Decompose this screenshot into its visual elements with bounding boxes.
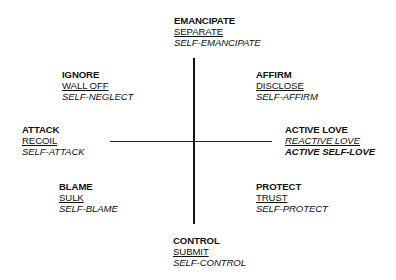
- node-active-love-reactive: REACTIVE LOVE: [285, 135, 375, 146]
- node-ignore-self: SELF-NEGLECT: [62, 91, 133, 102]
- node-emancipate: EMANCIPATE SEPARATE SELF-EMANCIPATE: [174, 15, 261, 48]
- node-attack: ATTACK RECOIL SELF-ATTACK: [22, 124, 85, 157]
- node-blame-primary: BLAME: [59, 181, 118, 192]
- node-blame-self: SELF-BLAME: [59, 203, 118, 214]
- node-attack-reactive: RECOIL: [22, 135, 85, 146]
- node-ignore: IGNORE WALL OFF SELF-NEGLECT: [62, 69, 133, 102]
- node-protect-primary: PROTECT: [256, 181, 328, 192]
- node-emancipate-reactive: SEPARATE: [174, 26, 261, 37]
- node-control-self: SELF-CONTROL: [173, 257, 246, 268]
- node-attack-primary: ATTACK: [22, 124, 85, 135]
- node-emancipate-self: SELF-EMANCIPATE: [174, 37, 261, 48]
- horizontal-axis-line: [110, 141, 272, 142]
- node-control: CONTROL SUBMIT SELF-CONTROL: [173, 235, 246, 268]
- node-affirm: AFFIRM DISCLOSE SELF-AFFIRM: [256, 69, 318, 102]
- node-active-love: ACTIVE LOVE REACTIVE LOVE ACTIVE SELF-LO…: [285, 124, 375, 157]
- node-affirm-primary: AFFIRM: [256, 69, 318, 80]
- node-active-love-primary: ACTIVE LOVE: [285, 124, 375, 135]
- node-blame-reactive: SULK: [59, 192, 118, 203]
- node-emancipate-primary: EMANCIPATE: [174, 15, 261, 26]
- node-attack-self: SELF-ATTACK: [22, 146, 85, 157]
- node-protect-reactive: TRUST: [256, 192, 328, 203]
- node-active-love-self: ACTIVE SELF-LOVE: [285, 146, 375, 157]
- node-protect-self: SELF-PROTECT: [256, 203, 328, 214]
- node-ignore-primary: IGNORE: [62, 69, 133, 80]
- interpersonal-circumplex-diagram: EMANCIPATE SEPARATE SELF-EMANCIPATE IGNO…: [0, 0, 396, 280]
- node-affirm-self: SELF-AFFIRM: [256, 91, 318, 102]
- node-control-primary: CONTROL: [173, 235, 246, 246]
- node-protect: PROTECT TRUST SELF-PROTECT: [256, 181, 328, 214]
- node-affirm-reactive: DISCLOSE: [256, 80, 318, 91]
- node-control-reactive: SUBMIT: [173, 246, 246, 257]
- node-blame: BLAME SULK SELF-BLAME: [59, 181, 118, 214]
- node-ignore-reactive: WALL OFF: [62, 80, 133, 91]
